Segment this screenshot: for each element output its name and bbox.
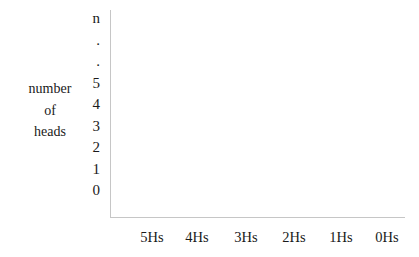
x-axis-tick-label: 4Hs <box>174 228 220 246</box>
y-axis-tick-label: 5 <box>74 73 102 95</box>
y-axis-tick-label: 4 <box>74 94 102 116</box>
blank-bar-chart-figure: number of heads n . . 5 4 3 2 1 0 5Hs 4H… <box>0 0 419 257</box>
x-axis-line <box>110 217 405 218</box>
x-axis-tick-label: 2Hs <box>271 228 317 246</box>
x-axis-tick-label: 3Hs <box>223 228 269 246</box>
x-axis-tick-label: 1Hs <box>318 228 364 246</box>
y-axis-tick-label: 1 <box>74 159 102 181</box>
y-axis-tick-labels: n . . 5 4 3 2 1 0 <box>74 8 102 202</box>
x-axis-tick-label: 5Hs <box>129 228 175 246</box>
y-axis-tick-label: 3 <box>74 116 102 138</box>
y-axis-tick-label: . <box>74 51 102 73</box>
x-axis-tick-label: 0Hs <box>364 228 410 246</box>
y-axis-tick-label: 2 <box>74 137 102 159</box>
y-axis-tick-label: . <box>74 30 102 52</box>
plot-area <box>111 11 405 217</box>
x-axis-tick-labels: 5Hs 4Hs 3Hs 2Hs 1Hs 0Hs <box>110 228 406 248</box>
y-axis-tick-label: n <box>74 8 102 30</box>
y-axis-tick-label: 0 <box>74 180 102 202</box>
